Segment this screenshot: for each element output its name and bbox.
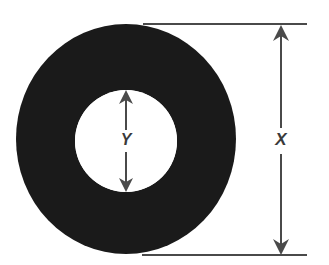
dimension-label-x: X xyxy=(274,130,288,149)
dimension-label-y: Y xyxy=(121,131,133,148)
annulus-dimension-diagram: X Y xyxy=(0,0,329,265)
diagram-canvas: X Y xyxy=(0,0,329,265)
